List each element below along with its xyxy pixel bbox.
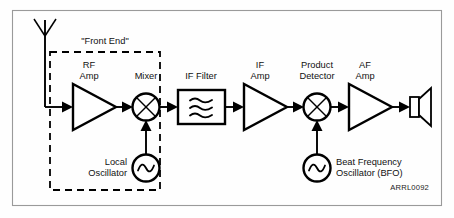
product-detector-block <box>304 94 331 121</box>
bfo-block <box>304 155 331 182</box>
bfo-label-line2: Oscillator (BFO) <box>336 168 403 178</box>
if-amp-label-line1: IF <box>256 60 265 70</box>
local-oscillator-label-line2: Oscillator <box>88 168 127 178</box>
receiver-block-diagram: "Front End" RF Amp Mixer Local Oscil <box>0 0 454 218</box>
mixer-block <box>133 94 160 121</box>
product-detector-label-line1: Product <box>301 60 333 70</box>
front-end-label: "Front End" <box>81 36 128 46</box>
rf-amp-label-line2: Amp <box>79 71 98 81</box>
product-detector-label-line2: Detector <box>299 71 334 81</box>
bfo-label-line1: Beat Frequency <box>336 157 402 167</box>
local-oscillator-label-line1: Local <box>105 157 127 167</box>
af-amp-label-line1: AF <box>359 60 371 70</box>
if-filter-label: IF Filter <box>185 71 217 81</box>
figure-credit: ARRL0092 <box>390 183 429 192</box>
if-filter-block <box>178 90 225 124</box>
af-amp-label-line2: Amp <box>355 71 374 81</box>
mixer-label: Mixer <box>135 71 158 81</box>
if-amp-label-line2: Amp <box>250 71 269 81</box>
diagram-canvas: "Front End" RF Amp Mixer Local Oscil <box>0 0 454 218</box>
local-oscillator-block <box>133 155 160 182</box>
rf-amp-label-line1: RF <box>83 60 96 70</box>
